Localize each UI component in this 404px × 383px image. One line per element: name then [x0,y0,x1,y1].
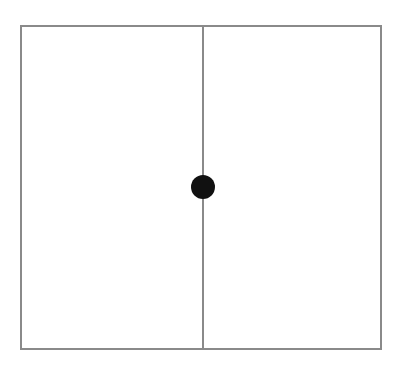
diagram-canvas [0,0,404,383]
center-dot-icon [191,175,215,199]
